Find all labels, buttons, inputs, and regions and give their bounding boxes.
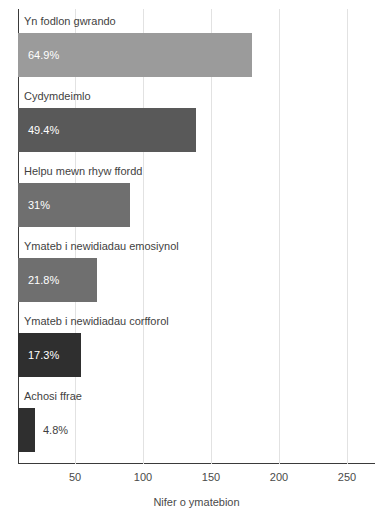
bar-2[interactable] xyxy=(18,183,130,227)
x-axis-label: Nifer o ymatebion xyxy=(18,496,375,508)
y-axis-line xyxy=(18,9,19,464)
x-axis-line xyxy=(18,463,375,464)
gridline-200 xyxy=(279,9,280,464)
bar-5[interactable] xyxy=(18,408,35,452)
xtick-label-50: 50 xyxy=(69,471,81,483)
category-label-5: Achosi ffrae xyxy=(24,390,82,402)
xtick-label-150: 150 xyxy=(202,471,220,483)
xtick-label-100: 100 xyxy=(134,471,152,483)
category-label-4: Ymateb i newidiadau corfforol xyxy=(24,315,169,327)
xtick-label-200: 200 xyxy=(270,471,288,483)
xtick-label-250: 250 xyxy=(338,471,356,483)
bar-0[interactable] xyxy=(18,33,252,77)
bar-1[interactable] xyxy=(18,108,196,152)
category-label-3: Ymateb i newidiadau emosiynol xyxy=(24,240,179,252)
category-label-0: Yn fodlon gwrando xyxy=(24,15,116,27)
bar-value-5: 4.8% xyxy=(35,408,68,452)
category-label-2: Helpu mewn rhyw ffordd xyxy=(24,165,142,177)
gridline-250 xyxy=(347,9,348,464)
bar-3[interactable] xyxy=(18,258,97,302)
plot-area: Yn fodlon gwrando 64.9% Cydymdeimlo 49.4… xyxy=(18,9,375,464)
gridline-150 xyxy=(211,9,212,464)
gridline-100 xyxy=(143,9,144,464)
chart-title-clipped xyxy=(0,0,382,5)
bar-chart: Yn fodlon gwrando 64.9% Cydymdeimlo 49.4… xyxy=(0,0,382,511)
category-label-1: Cydymdeimlo xyxy=(24,90,91,102)
bar-4[interactable] xyxy=(18,333,81,377)
